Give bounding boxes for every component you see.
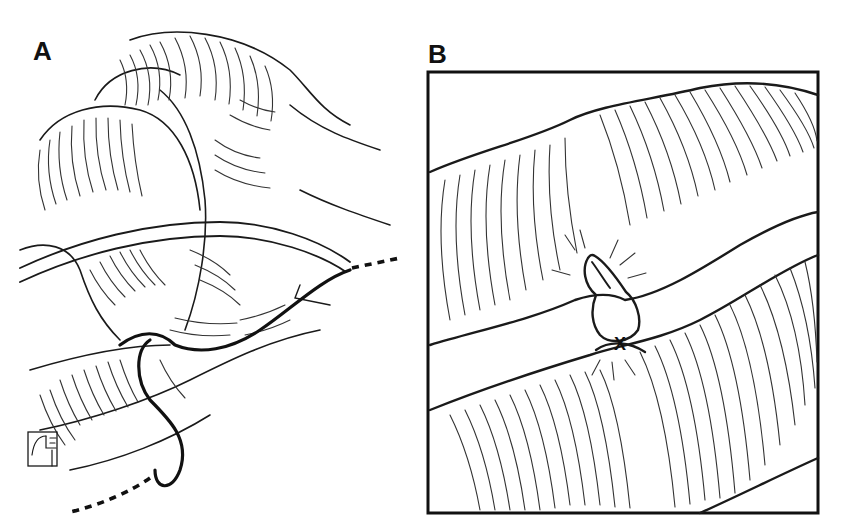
knot-mark: X (614, 334, 626, 354)
upper-bowel-segment (430, 83, 818, 345)
frame-border (428, 72, 818, 513)
panel-b-illustration: X (428, 72, 818, 513)
suture-thread (70, 258, 400, 512)
lower-bowel-segment (430, 255, 818, 513)
panel-a-illustration (20, 32, 400, 512)
drain-tube (20, 222, 350, 282)
artist-monogram-icon (28, 432, 57, 466)
